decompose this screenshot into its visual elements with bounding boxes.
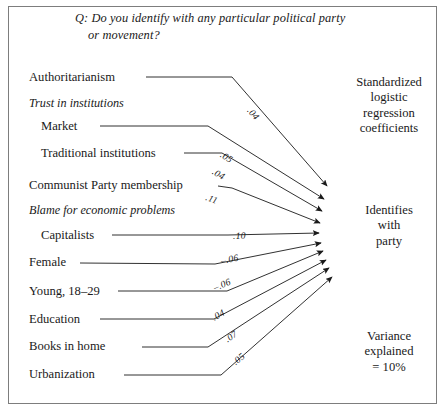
predictor-label-traditional-institutions: Traditional institutions: [41, 147, 156, 161]
predictor-label-communist-party-membership: Communist Party membership: [29, 179, 183, 193]
predictor-label-capitalists: Capitalists: [41, 229, 94, 243]
predictor-label-education: Education: [29, 313, 80, 327]
predictor-label-market: Market: [41, 120, 77, 134]
group-heading-trust-in-institutions: Trust in institutions: [29, 97, 124, 110]
legend-coefficient-type-line-3: regression: [343, 106, 435, 121]
legend-coefficient-type: Standardized logistic regression coeffic…: [343, 75, 435, 136]
variance-explained-line-3: = 10%: [343, 360, 435, 375]
outcome-node-line-1: Identifies: [343, 203, 435, 218]
figure-canvas: Q: Do you identify with any particular p…: [0, 0, 447, 414]
predictor-label-authoritarianism: Authoritarianism: [29, 71, 115, 85]
figure-title-line-2: or movement?: [88, 29, 160, 42]
outcome-node-identifies-with-party: Identifies with party: [343, 203, 435, 249]
group-heading-blame-for-economic-problems: Blame for economic problems: [29, 204, 175, 217]
legend-coefficient-type-line-2: logistic: [343, 90, 435, 105]
outcome-node-line-2: with: [343, 218, 435, 233]
figure-title-line-1: Q: Do you identify with any particular p…: [75, 12, 345, 25]
predictor-label-young-18-29: Young, 18–29: [29, 285, 100, 299]
predictor-label-female: Female: [29, 256, 66, 270]
coefficient-capitalists: .10: [233, 231, 246, 242]
variance-explained-line-2: explained: [343, 344, 435, 359]
variance-explained-note: Variance explained = 10%: [343, 329, 435, 375]
variance-explained-line-1: Variance: [343, 329, 435, 344]
predictor-label-urbanization: Urbanization: [29, 368, 95, 382]
predictor-label-books-in-home: Books in home: [29, 340, 105, 354]
legend-coefficient-type-line-1: Standardized: [343, 75, 435, 90]
outcome-node-line-3: party: [343, 234, 435, 249]
legend-coefficient-type-line-4: coefficients: [343, 121, 435, 136]
